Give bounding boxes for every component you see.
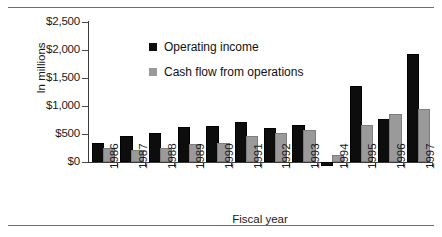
top-divider-rule	[8, 7, 434, 8]
x-axis-title: Fiscal year	[88, 213, 432, 225]
y-axis-tick-label: $1,000	[20, 99, 80, 111]
bottom-divider-rule	[8, 225, 434, 226]
y-axis-tick-label: $2,000	[20, 43, 80, 55]
x-axis-tick-label-1986: 1986	[108, 143, 120, 169]
bar-group-1994	[321, 22, 343, 162]
x-axis-tick-label-1996: 1996	[395, 143, 407, 169]
x-axis-tick-label-1993: 1993	[309, 143, 321, 169]
legend-label-cash-flow: Cash flow from operations	[164, 65, 303, 79]
x-axis-tick-label-1988: 1988	[166, 143, 178, 169]
x-axis-tick-label-1989: 1989	[194, 143, 206, 169]
legend-item-cash-flow: Cash flow from operations	[149, 65, 303, 79]
x-axis-tick-label-1995: 1995	[366, 143, 378, 169]
x-axis-tick-label-1994: 1994	[338, 143, 350, 169]
bar-group-1987	[120, 22, 142, 162]
legend-swatch-icon-operating-income	[149, 43, 157, 51]
bar-group-1996	[378, 22, 400, 162]
y-axis-tick-label: $500	[20, 127, 80, 139]
bar-group-1997	[407, 22, 429, 162]
legend: Operating income Cash flow from operatio…	[149, 40, 303, 90]
y-axis-tick-label: $0	[20, 155, 80, 167]
x-axis-tick-label-1990: 1990	[223, 143, 235, 169]
bar-group-1986	[92, 22, 114, 162]
x-axis-tick-label-1987: 1987	[137, 143, 149, 169]
legend-swatch-icon-cash-flow	[149, 68, 157, 76]
bar-group-1995	[350, 22, 372, 162]
legend-label-operating-income: Operating income	[164, 40, 259, 54]
figure: In millions $0$500$1,000$1,500$2,000$2,5…	[0, 0, 442, 237]
y-axis-tick-label: $1,500	[20, 71, 80, 83]
x-axis-tick-label-1997: 1997	[424, 143, 436, 169]
y-axis-tick-label: $2,500	[20, 15, 80, 27]
x-axis-tick-label-1991: 1991	[252, 143, 264, 169]
legend-item-operating-income: Operating income	[149, 40, 303, 54]
x-axis-tick-label-1992: 1992	[280, 143, 292, 169]
bar-1994-operating-income	[321, 162, 334, 166]
